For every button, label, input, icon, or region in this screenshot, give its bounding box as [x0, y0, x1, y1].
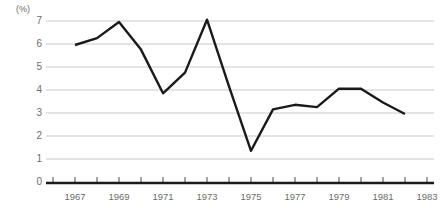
- chart-figure: (%) 7 6 5 4 3 2 1 0 1967 1969 1971 1973 …: [0, 0, 448, 219]
- gridlines: [46, 21, 434, 159]
- plot-area: [0, 0, 448, 219]
- data-series-line: [75, 20, 405, 151]
- x-axis-minor-ticks: [53, 177, 427, 182]
